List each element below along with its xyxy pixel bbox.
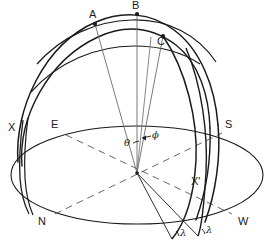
label-x-prime: X' — [191, 176, 200, 187]
label-phi: ϕ — [152, 130, 159, 140]
label-lambda-right: λ — [206, 225, 212, 235]
lambda-right-angle-arc — [202, 229, 205, 234]
label-south: S — [225, 119, 232, 130]
label-a: A — [89, 9, 96, 20]
radius-auxiliary — [137, 37, 151, 173]
point-marker-a — [93, 22, 97, 26]
point-marker-b — [135, 12, 139, 16]
hour-circle-through-c — [163, 36, 196, 239]
label-north: N — [38, 216, 46, 227]
figure-caption — [0, 242, 272, 251]
theta-angle-arc — [133, 141, 139, 143]
label-theta: θ — [124, 138, 130, 148]
label-east: E — [51, 119, 58, 130]
label-c: C — [157, 36, 165, 47]
label-west: W — [238, 216, 248, 227]
label-lambda-left: λ — [180, 228, 186, 238]
point-marker-centre — [135, 171, 139, 175]
label-x: X — [8, 122, 15, 133]
label-b: B — [132, 0, 139, 11]
celestial-sphere-figure: A B C X X' E S N W θ ϕ λ λ — [0, 0, 272, 251]
radius-to-c — [137, 36, 163, 173]
